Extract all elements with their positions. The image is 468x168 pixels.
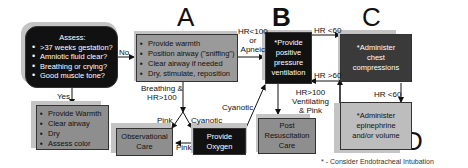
label-line: Breathing & [141,84,183,93]
routine-item: Clear airway [40,119,108,129]
oxygen-line: Oxygen [207,142,233,152]
observational-line: Care [136,142,152,152]
label-cyanotic-up: Cyanotic [222,103,253,112]
box-b-line: *Provide [274,38,302,48]
section-letter-c: C [362,4,381,30]
box-b-line: pressure [274,58,303,68]
label-no: No [119,48,129,57]
label-hr100-vent-pink: HR>100 Ventilating & Pink [292,88,329,115]
assess-item: >37 weeks gestation? [32,43,113,53]
routine-list: Provide Warmth Clear airway Dry Assess c… [40,109,108,149]
box-b-line: ventilation [272,68,306,78]
label-hr100-apneic: HR<100 or Apneic [238,27,268,54]
observational-care-box: Observational Care [116,128,173,156]
box-c-line: *Administer [357,43,395,53]
assess-title: Assess: [32,33,113,43]
routine-care-box: Provide Warmth Clear airway Dry Assess c… [36,105,109,150]
assess-item: Breathing or crying? [32,62,113,72]
box-c-line: compressions [353,63,399,73]
section-letter-b: B [272,4,291,30]
box-a-item: Dry, stimulate, reposition [140,69,237,79]
label-line: HR>100 [292,88,329,97]
oxygen-line: Provide [207,132,232,142]
label-pink-bottom: Pink [176,143,192,152]
post-resus-line: Care [279,141,295,151]
label-yes: Yes [57,92,70,101]
label-line: Ventilating [292,97,329,106]
label-line: or [238,36,268,45]
footnote: * - Consider Endotracheal Intubation [321,158,434,165]
section-letter-a: A [177,4,194,30]
box-c-line: chest [367,53,385,63]
box-d-line: *Administer [357,111,395,121]
post-resus-line: Resuscitation [264,131,309,141]
routine-item: Assess color [40,139,108,149]
routine-item: Provide Warmth [40,109,108,119]
box-a-item: Provide warmth [140,39,237,49]
box-b-line: positive [276,48,301,58]
assess-item: Good muscle tone? [32,71,113,81]
label-line: HR<100 [238,27,268,36]
label-line: & Pink [292,106,329,115]
box-a-initial-steps: Provide warmth Position airway ("sniffin… [136,34,238,82]
label-line: Apneic [238,45,268,54]
label-line: HR>100 [141,93,183,102]
label-hr-lt60-top: HR <60 [314,26,341,35]
box-b-ppv: *Provide positive pressure ventilation [265,32,312,84]
provide-oxygen-box: Provide Oxygen [193,128,246,155]
box-a-item: Position airway ("sniffing") [140,49,237,59]
box-a-item: Clear airway if needed [140,59,237,69]
routine-item: Dry [40,129,108,139]
post-resus-line: Post [279,121,294,131]
post-resuscitation-box: Post Resuscitation Care [258,118,316,154]
assess-box: Assess: >37 weeks gestation? Amniotic fl… [25,26,118,88]
box-c-compressions: *Administer chest compressions [340,34,412,82]
box-d-line: and/or volume [352,131,400,141]
label-hr-lt60-right: HR <60 [374,90,401,99]
assess-item: Amniotic fluid clear? [32,52,113,62]
observational-line: Observational [121,132,167,142]
label-breathing-hr100: Breathing & HR>100 [141,84,183,102]
box-a-list: Provide warmth Position airway ("sniffin… [140,39,237,79]
box-d-epinephrine: *Administer epinephrine and/or volume [340,102,412,150]
label-hr-gt60: HR >60 [314,71,341,80]
assess-list: >37 weeks gestation? Amniotic fluid clea… [32,43,113,81]
label-pink-left: Pink [157,116,173,125]
label-cyanotic-mid: Cyanotic [191,116,222,125]
box-d-line: epinephrine [356,121,395,131]
